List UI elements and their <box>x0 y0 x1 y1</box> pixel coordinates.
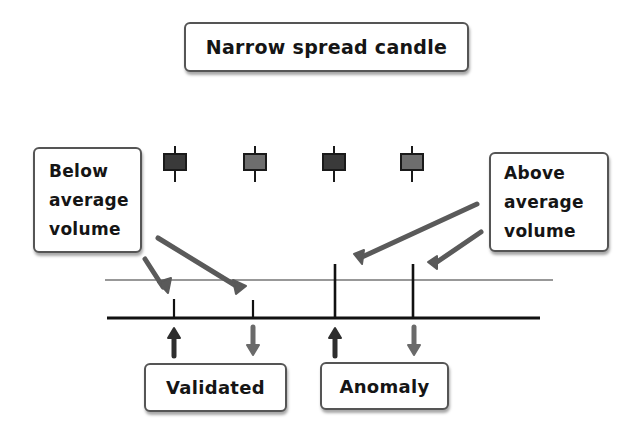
pointer-arrow-below-1 <box>145 259 171 293</box>
callout-line: Below <box>49 157 129 186</box>
candle-3 <box>323 146 345 182</box>
above-average-volume-callout: Above average volume <box>489 152 609 252</box>
callout-line: average <box>504 188 584 217</box>
up-arrow-icon <box>329 328 341 356</box>
title-box: Narrow spread candle <box>184 22 469 72</box>
up-arrow-icon <box>168 328 180 356</box>
callout-line: volume <box>504 217 584 246</box>
validated-label-box: Validated <box>144 363 287 412</box>
candle-4 <box>401 146 423 182</box>
pointer-arrow-below-2 <box>158 238 246 294</box>
title-text: Narrow spread candle <box>206 36 448 58</box>
below-average-volume-callout: Below average volume <box>33 147 142 253</box>
callout-line: average <box>49 186 129 215</box>
callout-line: Above <box>504 159 584 188</box>
callout-line: volume <box>49 215 129 244</box>
pointer-arrow-above-1 <box>354 204 477 264</box>
candle-2 <box>244 146 266 182</box>
down-arrow-icon <box>408 327 420 355</box>
validated-text: Validated <box>166 377 265 398</box>
candle-1 <box>164 146 186 182</box>
anomaly-label-box: Anomaly <box>320 362 449 410</box>
anomaly-text: Anomaly <box>339 376 429 397</box>
down-arrow-icon <box>247 327 259 355</box>
pointer-arrow-above-2 <box>428 232 481 269</box>
